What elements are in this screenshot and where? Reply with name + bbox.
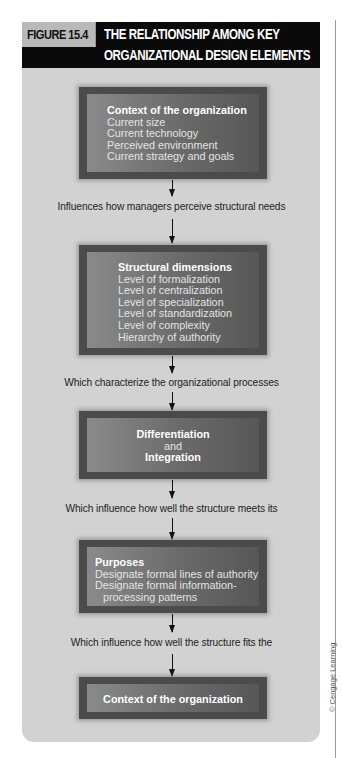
context-of-organization-box: Context of the organization Current size… (79, 87, 267, 179)
connector-label: Which characterize the organizational pr… (0, 377, 343, 388)
box-item: Level of complexity (118, 320, 259, 332)
box-item: Hierarchy of authority (118, 332, 259, 344)
copyright-credit: © Cengage Learning (328, 643, 337, 712)
down-arrow-icon (172, 392, 173, 410)
down-arrow-icon (172, 219, 173, 243)
purposes-box: Purposes Designate formal lines of autho… (79, 540, 267, 613)
down-arrow-icon (172, 614, 173, 632)
box-title: Context of the organization (87, 684, 259, 712)
connector-label: Influences how managers perceive structu… (0, 201, 343, 212)
down-arrow-icon (172, 518, 173, 539)
down-arrow-icon (172, 356, 173, 373)
box-title-differentiation: Differentiation (87, 429, 259, 441)
figure-title: THE RELATIONSHIP AMONG KEY ORGANIZATIONA… (104, 24, 310, 66)
structural-dimensions-box: Structural dimensions Level of formaliza… (79, 245, 267, 355)
box-item: Current strategy and goals (107, 151, 259, 163)
differentiation-integration-box: Differentiation and Integration (79, 411, 267, 479)
down-arrow-icon (172, 180, 173, 196)
figure-title-line-2: ORGANIZATIONAL DESIGN ELEMENTS (104, 45, 310, 66)
context-of-organization-result-box: Context of the organization (79, 677, 267, 719)
box-title: Context of the organization (107, 105, 259, 117)
figure-number: FIGURE 15.4 (22, 22, 96, 47)
connector-label: Which influence how well the structure m… (0, 503, 343, 514)
figure-title-line-1: THE RELATIONSHIP AMONG KEY (104, 24, 310, 45)
box-title-integration: Integration (87, 452, 259, 464)
box-title: Purposes (95, 557, 259, 569)
connector-label: Which influence how well the structure f… (0, 637, 343, 648)
down-arrow-icon (172, 654, 173, 676)
figure-header: FIGURE 15.4 THE RELATIONSHIP AMONG KEY O… (22, 22, 320, 68)
box-item: processing patterns (95, 592, 259, 604)
box-title: Structural dimensions (118, 262, 259, 274)
down-arrow-icon (172, 480, 173, 498)
